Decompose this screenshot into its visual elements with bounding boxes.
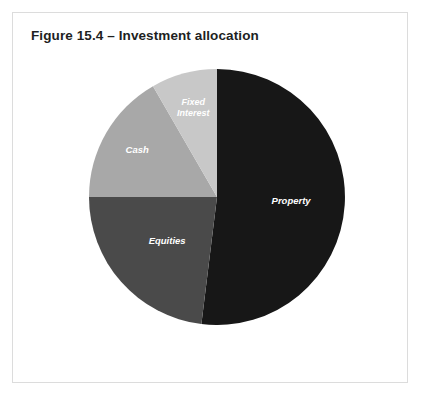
pie-slice-label-fixed-interest: Fixed xyxy=(181,97,205,107)
pie-slice-label-cash: Cash xyxy=(126,144,149,155)
pie-slice-equities xyxy=(89,197,217,324)
pie-slice-label-equities: Equities xyxy=(149,235,186,246)
pie-slice-label-fixed-interest: Interest xyxy=(177,108,211,118)
pie-chart: PropertyEquitiesCashFixedInterest xyxy=(89,69,345,325)
figure-card: Figure 15.4 – Investment allocation Prop… xyxy=(12,12,408,383)
figure-title: Figure 15.4 – Investment allocation xyxy=(31,28,259,43)
pie-slice-label-property: Property xyxy=(272,195,312,206)
pie-chart-svg: PropertyEquitiesCashFixedInterest xyxy=(89,69,345,325)
